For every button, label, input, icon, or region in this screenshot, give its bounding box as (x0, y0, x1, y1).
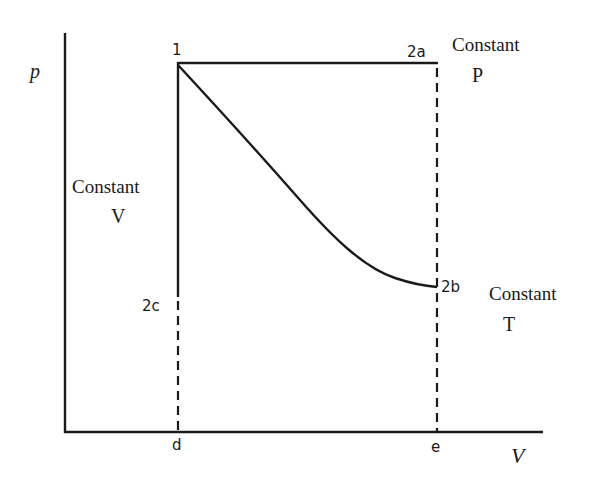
constant-v-label-line1: Constant (72, 176, 140, 197)
point-2c-label: 2c (142, 297, 160, 315)
x-axis-label: V (511, 443, 527, 468)
point-d-label: d (172, 436, 182, 454)
y-axis-label: p (28, 60, 40, 83)
point-2b-label: 2b (441, 278, 460, 296)
pv-diagram: p V 1 2a 2b 2c d e Constant P Constant T… (0, 0, 607, 481)
point-2a-label: 2a (407, 43, 426, 61)
constant-v-label-line2: V (111, 205, 126, 227)
point-e-label: e (431, 438, 440, 456)
constant-t-label-line1: Constant (489, 283, 557, 304)
constant-t-label-line2: T (503, 313, 515, 335)
constant-p-label-line2: P (472, 64, 483, 86)
point-1-label: 1 (172, 41, 182, 59)
constant-t-curve (178, 65, 437, 287)
constant-p-label-line1: Constant (452, 34, 520, 55)
